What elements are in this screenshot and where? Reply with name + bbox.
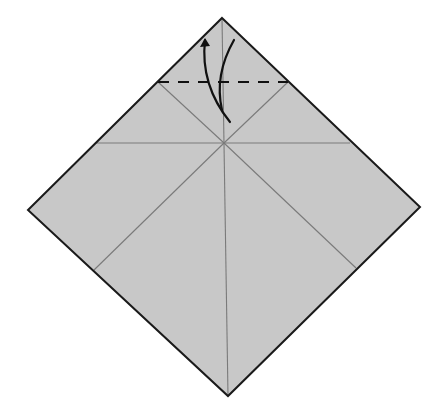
- paper-square: [28, 18, 420, 396]
- origami-diagram: [0, 0, 436, 415]
